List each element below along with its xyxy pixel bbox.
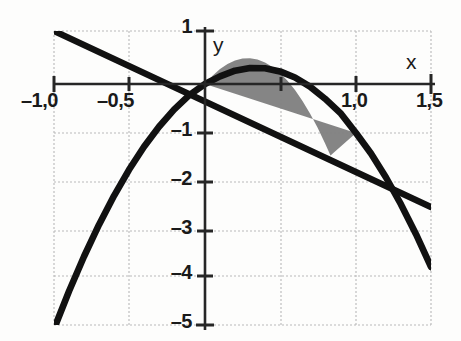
x-axis-title: x [406, 50, 417, 74]
y-tick-label--5: –5 [150, 310, 192, 333]
y-tick-label--4: –4 [150, 261, 192, 284]
x-tick-label-1_5: 1,5 [416, 89, 442, 112]
y-axis-title: y [213, 33, 224, 57]
y-tick-label--2: –2 [150, 167, 192, 190]
plot-area [0, 0, 461, 341]
y-tick-label--1: –1 [150, 118, 192, 141]
y-tick-label-1: 1 [160, 15, 192, 38]
x-tick-label--1_0: –1,0 [21, 89, 58, 112]
chart-figure: –1,0 –0,5 1,0 1,5 1 –1 –2 –3 –4 –5 x y [0, 0, 461, 341]
x-tick-label--0_5: –0,5 [97, 89, 134, 112]
y-tick-label--3: –3 [150, 216, 192, 239]
x-tick-label-1_0: 1,0 [341, 89, 367, 112]
